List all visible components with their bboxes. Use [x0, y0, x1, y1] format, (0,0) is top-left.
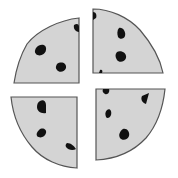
piece-bottom-left: [11, 97, 77, 168]
piece-top-left: [14, 18, 79, 83]
cookie-quarters-illustration: [0, 0, 178, 178]
piece-top-right: [93, 9, 163, 73]
piece-bottom-right: [96, 89, 165, 160]
